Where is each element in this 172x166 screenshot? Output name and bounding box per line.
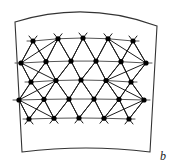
mesh-node <box>68 58 73 63</box>
mesh-node <box>118 59 123 64</box>
mesh-node <box>78 77 83 82</box>
mesh-row-edge <box>19 99 44 100</box>
mesh-node <box>76 115 81 120</box>
mesh-node <box>141 97 146 102</box>
mesh-node <box>51 116 56 121</box>
mesh-row-edge <box>46 61 71 62</box>
mesh-node <box>126 116 131 121</box>
mesh-node <box>128 79 133 84</box>
mesh-node <box>53 78 58 83</box>
mesh-row-edge <box>81 80 106 81</box>
mesh-node <box>116 97 121 102</box>
mesh-node <box>41 97 46 102</box>
mesh-figure <box>0 0 172 166</box>
mesh-node <box>101 116 106 121</box>
mesh-node <box>16 97 21 102</box>
mesh-row-edge <box>119 99 144 100</box>
mesh-node <box>105 36 110 41</box>
mesh-node <box>43 59 48 64</box>
mesh-node <box>143 60 148 65</box>
mesh-row-edge <box>96 61 121 62</box>
mesh-node <box>55 36 60 41</box>
mesh-node <box>80 35 85 40</box>
mesh-node <box>93 58 98 63</box>
mesh-node <box>91 96 96 101</box>
mesh-node <box>30 38 35 43</box>
mesh-node <box>26 116 31 121</box>
subfigure-label: b <box>160 150 166 162</box>
mesh-node <box>130 38 135 43</box>
mesh-node <box>66 96 71 101</box>
mesh-node <box>103 78 108 83</box>
mesh-node <box>18 60 23 65</box>
mesh-row-edge <box>56 80 81 81</box>
mesh-node <box>28 79 33 84</box>
